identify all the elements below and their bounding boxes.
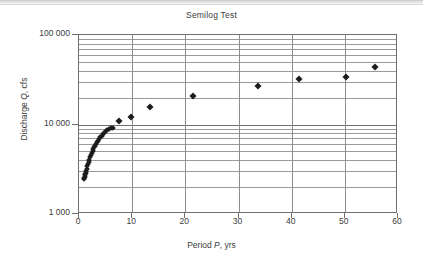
grid-line-minor-horizontal — [79, 151, 396, 152]
y-axis-title-post: , cfs — [19, 78, 29, 94]
grid-line-minor-horizontal — [79, 62, 396, 63]
x-axis-tick-mark — [291, 213, 292, 218]
grid-line-minor-horizontal — [79, 55, 396, 56]
y-axis-title-symbol: Q — [19, 93, 29, 100]
grid-line-vertical — [292, 35, 293, 212]
plot-area — [78, 34, 397, 213]
grid-line-vertical — [132, 35, 133, 212]
y-axis-title: Discharge Q, cfs — [19, 39, 29, 179]
grid-line-vertical — [185, 35, 186, 212]
x-axis-title: Period P, yrs — [0, 240, 423, 250]
grid-line-minor-horizontal — [79, 171, 396, 172]
grid-line-vertical — [345, 35, 346, 212]
grid-line-minor-horizontal — [79, 71, 396, 72]
gridlines — [79, 35, 396, 212]
x-axis-tick-mark — [78, 213, 79, 218]
grid-line-major-horizontal — [79, 125, 396, 126]
x-axis-tick-mark — [397, 213, 398, 218]
x-axis-title-post: , yrs — [220, 240, 236, 250]
y-axis-title-pre: Discharge — [19, 100, 29, 141]
scan-top-rule — [0, 4, 423, 5]
chart-title: Semilog Test — [0, 10, 423, 20]
grid-line-minor-horizontal — [79, 133, 396, 134]
grid-line-minor-horizontal — [79, 39, 396, 40]
grid-line-minor-horizontal — [79, 98, 396, 99]
grid-line-minor-horizontal — [79, 160, 396, 161]
chart-page: Semilog Test 1 00010 000100 000 01020304… — [0, 0, 423, 269]
x-axis-title-pre: Period — [187, 240, 214, 250]
x-axis-tick-mark — [238, 213, 239, 218]
grid-line-minor-horizontal — [79, 82, 396, 83]
grid-line-minor-horizontal — [79, 144, 396, 145]
grid-line-minor-horizontal — [79, 49, 396, 50]
x-axis-tick-mark — [184, 213, 185, 218]
x-axis-tick-mark — [131, 213, 132, 218]
x-axis-tick-mark — [344, 213, 345, 218]
grid-line-minor-horizontal — [79, 44, 396, 45]
grid-line-minor-horizontal — [79, 129, 396, 130]
grid-line-minor-horizontal — [79, 187, 396, 188]
y-axis-tick-label: 100 000 — [0, 28, 70, 38]
y-axis-tick-label: 10 000 — [0, 118, 70, 128]
grid-line-minor-horizontal — [79, 138, 396, 139]
grid-line-vertical — [239, 35, 240, 212]
